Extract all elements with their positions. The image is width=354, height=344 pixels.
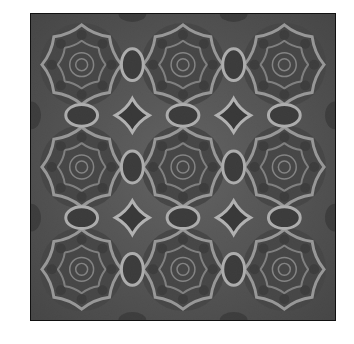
- pattern-image: [30, 13, 336, 321]
- rosette-tiling: [31, 14, 335, 320]
